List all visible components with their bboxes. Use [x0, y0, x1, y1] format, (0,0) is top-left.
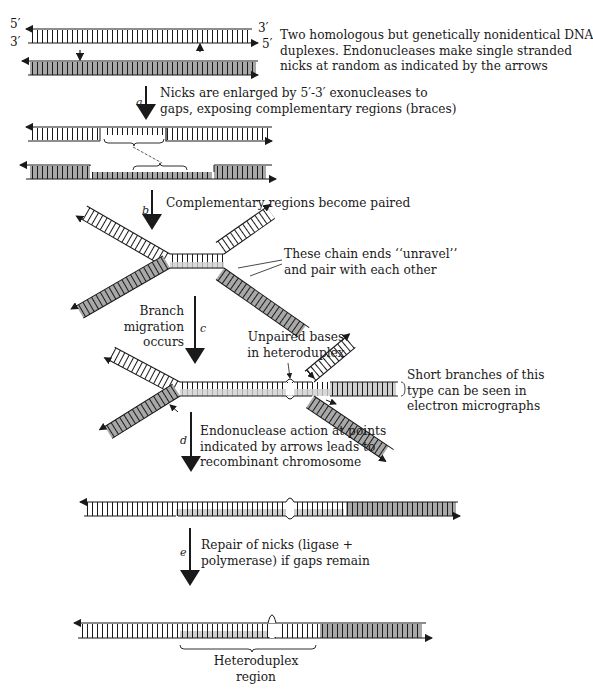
heteroduplex-brace-icon: [180, 645, 316, 652]
label-3-prime-top-right: 3′: [258, 21, 268, 35]
caption-initial: Two homologous but genetically nonidenti…: [280, 28, 593, 75]
label-heteroduplex-region: Heteroduplex region: [196, 654, 316, 685]
caption-step-d: Endonuclease action at points indicated …: [200, 424, 386, 471]
label-5-prime-top-left: 5′: [10, 17, 20, 31]
step-letter-c: c: [200, 322, 206, 335]
caption-step-b: Complementary regions become paired: [166, 196, 410, 212]
brace-icon: [133, 163, 187, 170]
gapped-duplex-2: [20, 163, 276, 179]
brace-icon: [401, 382, 405, 396]
endonuclease-arrow-icon: [170, 405, 178, 412]
label-3-prime-bottom-left: 3′: [10, 35, 20, 49]
annotation-short-branches: Short branches of this type can be seen …: [407, 368, 545, 415]
caption-step-c: Branch migration occurs: [72, 304, 184, 351]
gapped-duplex-1: [26, 127, 272, 163]
caption-step-a: Nicks are enlarged by 5′-3′ exonucleases…: [160, 86, 457, 117]
label-5-prime-bottom-right: 5′: [262, 37, 272, 51]
duplex-1-unshaded: [26, 29, 258, 52]
recombinant-chromosome: [80, 498, 460, 519]
duplex-2-shaded: [22, 50, 258, 75]
endonuclease-arrow-icon: [326, 400, 336, 404]
step-letter-b: b: [142, 204, 149, 217]
step-letter-e: e: [180, 546, 187, 559]
step-letter-a: a: [136, 96, 143, 109]
annotation-chain-ends: These chain ends ‘‘unravel’’ and pair wi…: [284, 247, 457, 278]
annotation-unpaired-bases: Unpaired bases in heteroduplex: [236, 330, 356, 361]
repaired-chromosome: [74, 615, 432, 652]
brace-icon: [104, 139, 164, 146]
step-letter-d: d: [180, 434, 187, 447]
unpaired-bulge-icon: [286, 379, 294, 382]
caption-step-e: Repair of nicks (ligase + polymerase) if…: [201, 538, 370, 569]
